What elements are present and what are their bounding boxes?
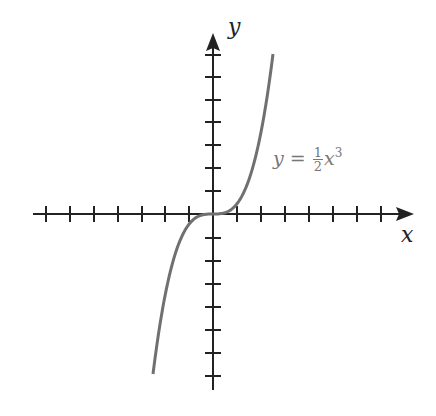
axes: [33, 33, 414, 390]
eq-variable: x: [324, 147, 335, 169]
x-axis-label: x: [401, 222, 413, 247]
eq-lhs: y =: [273, 147, 306, 169]
y-axis-label: y: [228, 14, 240, 39]
graph-canvas: [0, 0, 436, 416]
fraction-denominator: 2: [313, 160, 323, 173]
eq-exponent: 3: [335, 146, 343, 160]
fraction: 1 2: [313, 146, 323, 173]
fraction-numerator: 1: [313, 146, 323, 160]
equation-label: y = 1 2 x3: [273, 146, 342, 173]
